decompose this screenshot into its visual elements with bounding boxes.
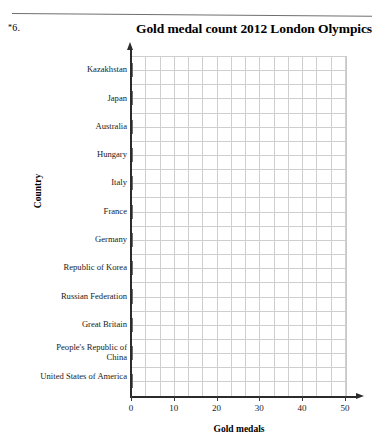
bar-australia (131, 120, 161, 134)
bar-japan (131, 91, 161, 105)
horizontal-gridlines (131, 56, 346, 396)
category-label: Republic of Korea (64, 263, 127, 273)
x-tick-label: 30 (247, 403, 271, 413)
category-label: Japan (107, 94, 127, 104)
category-label: United States of America (39, 372, 127, 382)
problem-star: * (8, 23, 12, 32)
x-tick-mark (174, 396, 175, 401)
bar-germany (131, 233, 178, 247)
bar-kazakhstan (131, 63, 161, 77)
problem-number-text: 6. (12, 22, 20, 33)
x-tick-mark (131, 396, 132, 401)
bar-italy (131, 176, 165, 190)
y-axis-title: Country (33, 174, 43, 208)
y-axis-arrow-icon (127, 42, 133, 50)
category-label: Hungary (97, 150, 127, 160)
bar-russian-federation (131, 289, 234, 303)
bar-france (131, 205, 178, 219)
x-tick-label: 10 (162, 403, 186, 413)
bar-people-s-republic-of-china (131, 346, 294, 360)
x-tick-mark (217, 396, 218, 401)
category-label: Kazakhstan (87, 65, 127, 75)
x-tick-label: 0 (119, 403, 143, 413)
plot-area (131, 56, 347, 396)
problem-number: *6. (8, 22, 20, 33)
x-tick-label: 40 (290, 403, 314, 413)
x-axis-line (130, 396, 358, 398)
bar-great-britain (131, 318, 255, 332)
x-axis-title: Gold medals (131, 424, 347, 434)
chart-title: Gold medal count 2012 London Olympics (130, 22, 378, 37)
category-label: People's Republic of China (39, 343, 127, 362)
x-tick-mark (345, 396, 346, 401)
page-divider-rule (12, 13, 372, 17)
x-tick-label: 20 (205, 403, 229, 413)
x-tick-label: 50 (333, 403, 357, 413)
bar-united-states-of-america (131, 374, 328, 388)
category-label: Australia (95, 122, 127, 132)
bar-republic-of-korea (131, 261, 187, 275)
bar-hungary (131, 148, 165, 162)
category-label: France (104, 207, 127, 217)
x-axis-arrow-icon (356, 393, 364, 399)
x-tick-mark (259, 396, 260, 401)
category-label: Russian Federation (61, 292, 127, 302)
category-label: Germany (95, 235, 127, 245)
y-axis-line (130, 48, 132, 396)
x-tick-mark (302, 396, 303, 401)
category-label: Great Britain (82, 320, 127, 330)
category-label: Italy (111, 178, 127, 188)
